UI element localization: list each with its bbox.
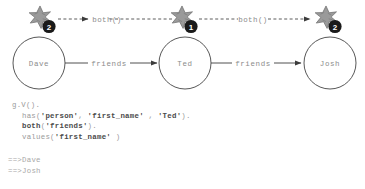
- traversal-label-both-right: both(): [238, 16, 267, 24]
- step-marker-dave: 2: [29, 6, 55, 33]
- traversal-label-both-left: both(): [92, 16, 121, 24]
- step-marker-ted: 1: [171, 6, 197, 33]
- code-token: 'person': [41, 112, 78, 120]
- gremlin-code-block: g.V().has('person', 'first_name' , 'Ted'…: [12, 100, 352, 142]
- code-token: ,: [144, 112, 158, 120]
- node-dave[interactable]: Dave: [13, 37, 65, 89]
- graph-illustration: both() both() friends friends Dave: [0, 0, 365, 100]
- code-token: ).: [88, 122, 97, 130]
- node-josh[interactable]: Josh: [304, 37, 356, 89]
- code-line: has('person', 'first_name' , 'Ted').: [12, 111, 352, 122]
- code-token: ).: [181, 112, 190, 120]
- edge-label-friends-1: friends: [91, 60, 127, 68]
- code-line: values('first_name' ): [12, 132, 352, 143]
- step-marker-josh: 2: [315, 6, 341, 33]
- node-label-ted: Ted: [177, 60, 192, 68]
- step-badge-josh-label: 2: [333, 23, 338, 32]
- code-token: ): [111, 133, 120, 141]
- diagram-canvas: both() both() friends friends Dave: [0, 0, 365, 189]
- code-token: ,: [78, 112, 87, 120]
- code-token: 'first_name': [88, 112, 144, 120]
- result-line: ==>Dave: [8, 155, 41, 166]
- code-token: has(: [22, 112, 41, 120]
- code-token: g.V().: [12, 101, 40, 109]
- code-token: 'first_name': [55, 133, 111, 141]
- code-token: both: [22, 122, 41, 130]
- code-line: g.V().: [12, 100, 352, 111]
- code-token: 'Ted': [158, 112, 181, 120]
- traversal-ted-to-dave: both(): [58, 16, 172, 24]
- node-ted[interactable]: Ted: [159, 37, 211, 89]
- edge-dave-ted: friends: [65, 60, 157, 68]
- traversal-ted-to-josh: both(): [199, 16, 310, 24]
- query-results-block: ==>Dave==>Josh: [8, 155, 41, 176]
- edge-ted-josh: friends: [211, 60, 301, 68]
- step-badge-ted-label: 1: [189, 23, 194, 32]
- node-label-josh: Josh: [320, 60, 340, 68]
- code-line: both('friends').: [12, 121, 352, 132]
- result-line: ==>Josh: [8, 166, 41, 177]
- edge-label-friends-2: friends: [235, 60, 271, 68]
- code-token: 'friends': [45, 122, 87, 130]
- code-token: values(: [22, 133, 55, 141]
- step-badge-dave-label: 2: [47, 23, 52, 32]
- node-label-dave: Dave: [29, 60, 49, 68]
